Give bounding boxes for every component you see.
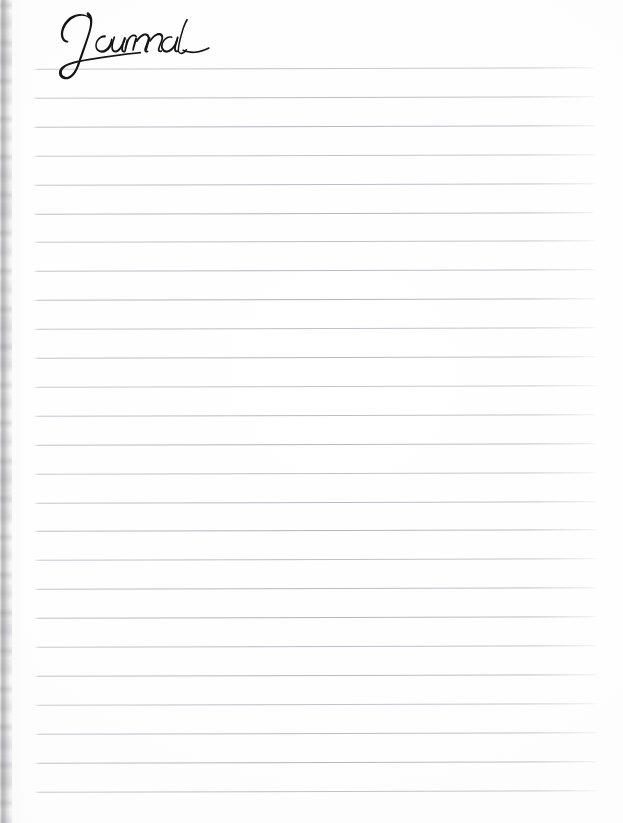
ruled-writing-line <box>33 587 597 590</box>
ruled-writing-line <box>32 212 596 215</box>
ruled-writing-line <box>34 616 598 619</box>
page-title: Journal <box>34 8 294 86</box>
ruled-writing-line <box>34 674 598 677</box>
ruled-writing-line <box>33 414 597 417</box>
ruled-writing-line <box>33 501 597 504</box>
ruled-writing-line <box>33 356 597 359</box>
page-description: Blank lined journal page with handwritte… <box>0 0 1 1</box>
ruled-writing-line <box>33 529 597 532</box>
ruled-writing-line <box>33 327 597 330</box>
ruled-writing-line <box>32 183 596 186</box>
journal-page: Journal Blank lined journal page wi <box>0 0 623 823</box>
ruled-writing-line <box>33 558 597 561</box>
ruled-writing-line <box>34 703 598 706</box>
ruled-writing-line <box>32 154 596 157</box>
ruled-writing-line <box>33 472 597 475</box>
journal-script-title: Journal <box>34 8 219 80</box>
ruled-writing-line <box>34 645 598 648</box>
ruled-writing-line <box>32 125 596 128</box>
left-edge-soft-shadow <box>0 0 26 823</box>
ruled-writing-line <box>34 761 598 764</box>
ruled-writing-line <box>33 240 597 243</box>
scanner-shadow-strip <box>0 0 12 823</box>
ruled-writing-line <box>34 790 598 793</box>
ruled-writing-line <box>33 298 597 301</box>
ruled-writing-line <box>33 385 597 388</box>
paper-surface <box>0 0 623 823</box>
ruled-lines-group <box>0 0 623 823</box>
ruled-writing-line <box>33 269 597 272</box>
ruled-writing-line <box>34 732 598 735</box>
ruled-writing-line <box>32 96 596 99</box>
scanner-shadow-texture <box>0 0 12 823</box>
ruled-writing-line <box>33 443 597 446</box>
